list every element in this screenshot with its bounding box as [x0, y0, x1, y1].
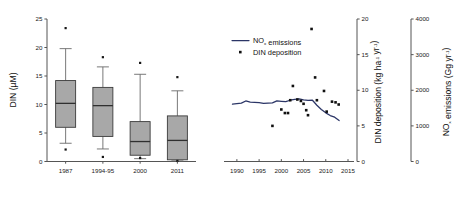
left-y-tick-label: 0 [39, 158, 43, 165]
din-deposition-point [289, 99, 292, 102]
outlier-point [139, 157, 141, 159]
box [130, 122, 150, 156]
din-deposition-point [296, 98, 299, 101]
din-deposition-axis-title: DIN deposition (kg ha-1 yr-1) [369, 40, 383, 143]
din-deposition-point [331, 100, 334, 103]
left-y-tick-label: 5 [39, 129, 43, 136]
nox-emissions-tick-label: 1000 [416, 122, 430, 129]
outlier-point [176, 76, 178, 78]
left-y-tick-label: 20 [36, 44, 43, 51]
din-deposition-point [307, 114, 310, 117]
legend-dot-swatch [239, 51, 242, 54]
din-deposition-point [292, 85, 295, 88]
right-x-tick-label: 1990 [230, 167, 244, 174]
din-deposition-tick-label: 15 [362, 51, 369, 58]
left-y-axis-title: DIN (µM) [8, 72, 18, 107]
left-y-tick-label: 10 [36, 101, 43, 108]
nox-emissions-line [232, 99, 339, 121]
figure-canvas: 0510152025DIN (µM)19871994-9520002011199… [0, 0, 463, 200]
boxplot-1994-95 [93, 56, 113, 158]
left-x-tick-label: 1987 [59, 167, 73, 174]
din-deposition-point [310, 28, 313, 31]
din-deposition-point [316, 99, 319, 102]
din-deposition-point [314, 76, 317, 79]
din-deposition-point [284, 112, 287, 115]
din-deposition-tick-label: 5 [362, 122, 366, 129]
right-x-tick-label: 2005 [297, 167, 311, 174]
outlier-point [139, 62, 141, 64]
left-y-tick-label: 15 [36, 72, 43, 79]
din-deposition-point [300, 100, 303, 103]
nox-emissions-tick-label: 0 [416, 158, 420, 165]
outlier-point [102, 56, 104, 58]
din-deposition-tick-label: 20 [362, 15, 369, 22]
right-x-tick-label: 2000 [274, 167, 288, 174]
din-deposition-point [302, 102, 305, 105]
right-x-tick-label: 1995 [252, 167, 266, 174]
box [93, 87, 113, 136]
legend-label-nox-emissions: NOx emissions [253, 36, 302, 47]
nox-emissions-tick-label: 3000 [416, 51, 430, 58]
boxplot-2011 [167, 76, 187, 162]
din-deposition-tick-label: 0 [362, 158, 366, 165]
boxplot-1987 [56, 27, 76, 151]
din-deposition-point [334, 101, 337, 104]
din-deposition-point [271, 125, 274, 128]
din-deposition-point [287, 112, 290, 115]
din-deposition-tick-label: 10 [362, 86, 369, 93]
left-x-tick-label: 2011 [171, 167, 185, 174]
nox-emissions-axis-title: NOx emissions (Gg yr-1) [441, 48, 453, 137]
box [167, 116, 187, 160]
din-deposition-point [337, 103, 340, 106]
left-x-tick-label: 2000 [133, 167, 147, 174]
figure-container: 0510152025DIN (µM)19871994-9520002011199… [0, 0, 463, 200]
left-y-tick-label: 25 [36, 15, 43, 22]
legend-label-din-deposition: DIN deposition [253, 48, 301, 57]
outlier-point [102, 156, 104, 158]
din-deposition-point [323, 90, 326, 93]
right-x-tick-label: 2010 [319, 167, 333, 174]
din-deposition-point [325, 110, 328, 113]
outlier-point [65, 27, 67, 29]
nox-emissions-tick-label: 2000 [416, 86, 430, 93]
left-x-tick-label: 1994-95 [92, 167, 115, 174]
right-x-tick-label: 2015 [341, 167, 355, 174]
outlier-point [65, 148, 67, 150]
din-deposition-point [280, 108, 283, 111]
nox-emissions-tick-label: 4000 [416, 15, 430, 22]
din-deposition-point [305, 109, 308, 112]
boxplot-2000 [130, 62, 150, 159]
